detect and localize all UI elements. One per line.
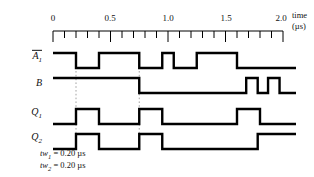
note-tw1-symbol: tw [40, 148, 48, 158]
note-tw1-eq: = [53, 148, 58, 158]
note-tw1-sub: 1 [48, 153, 51, 160]
note-tw2-sub: 2 [48, 165, 51, 172]
timing-diagram-figure: 0 0.5 1.0 1.5 2.0 time (µs) A1 B Q1 Q2 t… [0, 0, 314, 177]
time-axis [53, 31, 283, 42]
note-tw1: tw1 = 0.20 µs [40, 148, 86, 160]
waveforms [53, 53, 296, 149]
waveform-Q1 [53, 109, 296, 124]
note-tw1-unit: µs [77, 148, 85, 158]
note-tw2: tw2 = 0.20 µs [40, 160, 86, 172]
note-tw1-value: 0.20 [60, 148, 75, 158]
note-tw2-value: 0.20 [60, 160, 75, 170]
waveform-A1-bar [53, 53, 296, 68]
waveform-Q2 [53, 134, 296, 149]
note-tw2-symbol: tw [40, 160, 48, 170]
note-tw2-eq: = [53, 160, 58, 170]
waveform-B [53, 78, 296, 93]
guide-lines [76, 52, 139, 150]
note-tw2-unit: µs [77, 160, 85, 170]
